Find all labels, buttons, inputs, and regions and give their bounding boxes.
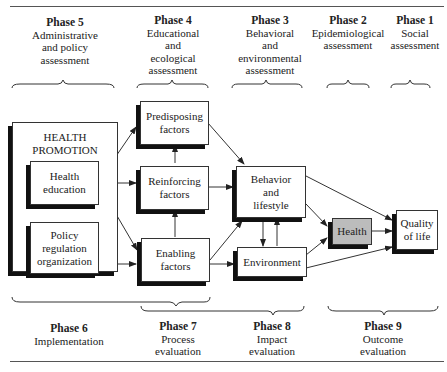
box-text: and xyxy=(251,186,291,199)
title-line: HEALTH xyxy=(13,131,117,144)
behavior-lifestyle-box: Behavior and lifestyle xyxy=(236,166,306,218)
health-education-box: Health education xyxy=(30,161,99,205)
enabling-factors-box: Enabling factors xyxy=(141,238,210,282)
box-text: Quality xyxy=(401,217,434,230)
box-text: Predisposing xyxy=(146,110,203,123)
box-text: factors xyxy=(148,188,201,201)
title-line: PROMOTION xyxy=(13,144,117,157)
box-text: Health xyxy=(337,225,366,238)
box-text: Reinforcing xyxy=(148,175,201,188)
box-text: of life xyxy=(401,230,434,243)
box-text: factors xyxy=(146,123,203,136)
reinforcing-factors-box: Reinforcing factors xyxy=(140,166,209,210)
health-box: Health xyxy=(332,218,372,245)
box-text: Health xyxy=(43,170,86,183)
box-text: Environment xyxy=(243,256,300,269)
box-text: education xyxy=(43,183,86,196)
policy-regulation-organization-box: Policy regulation organization xyxy=(30,222,99,274)
box-text: Policy xyxy=(37,229,92,242)
box-text: Enabling xyxy=(156,247,196,260)
box-text: factors xyxy=(156,260,196,273)
box-text: regulation xyxy=(37,242,92,255)
health-promotion-title: HEALTH PROMOTION xyxy=(13,131,117,157)
quality-of-life-box: Quality of life xyxy=(396,210,438,250)
box-text: organization xyxy=(37,255,92,268)
box-text: Behavior xyxy=(251,173,291,186)
environment-box: Environment xyxy=(237,247,307,277)
predisposing-factors-box: Predisposing factors xyxy=(140,101,209,145)
box-text: lifestyle xyxy=(251,199,291,212)
